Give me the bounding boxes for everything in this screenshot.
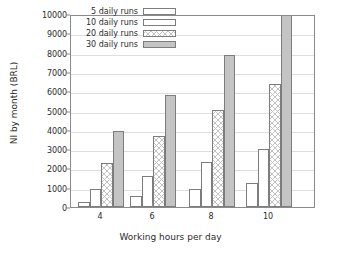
x-tick-mark (152, 203, 153, 208)
legend-item: 20 daily runs (86, 28, 176, 38)
y-tick-mark (66, 53, 70, 54)
bar (246, 183, 258, 207)
legend-label: 20 daily runs (86, 29, 138, 38)
y-tick-label: 8000 (47, 49, 67, 58)
y-tick-label: 3000 (47, 146, 67, 155)
x-tick-mark (268, 203, 269, 208)
legend-swatch (143, 8, 176, 15)
x-tick-label: 10 (263, 212, 273, 221)
bar (78, 202, 90, 207)
y-tick-label: 7000 (47, 68, 67, 77)
legend-swatch (143, 19, 176, 26)
bar (269, 84, 281, 207)
y-tick-mark (66, 130, 70, 131)
bar (212, 110, 224, 207)
y-tick-label: 6000 (47, 88, 67, 97)
y-tick-mark (66, 72, 70, 73)
y-tick-label: 2000 (47, 165, 67, 174)
bar (189, 189, 201, 207)
y-tick-mark (66, 208, 70, 209)
legend: 5 daily runs10 daily runs20 daily runs30… (86, 6, 176, 49)
y-tick-mark (66, 188, 70, 189)
legend-swatch (143, 30, 176, 37)
x-tick-label: 6 (149, 212, 154, 221)
bar (101, 163, 113, 207)
bar (281, 15, 293, 207)
y-tick-mark (66, 169, 70, 170)
legend-swatch (143, 41, 176, 48)
bar (258, 149, 270, 207)
y-tick-mark (66, 15, 70, 16)
x-tick-mark (211, 203, 212, 208)
y-tick-label: 5000 (47, 107, 67, 116)
y-tick-label: 10000 (42, 11, 67, 20)
legend-label: 30 daily runs (86, 40, 138, 49)
bar (224, 55, 236, 207)
bar-chart: 0100020003000400050006000700080009000100… (0, 0, 341, 259)
x-axis-title: Working hours per day (0, 232, 341, 242)
legend-item: 5 daily runs (86, 6, 176, 16)
bar (130, 196, 142, 207)
y-tick-mark (66, 34, 70, 35)
legend-label: 5 daily runs (91, 7, 138, 16)
legend-label: 10 daily runs (86, 18, 138, 27)
x-tick-mark (100, 203, 101, 208)
legend-item: 10 daily runs (86, 17, 176, 27)
x-tick-label: 4 (97, 212, 102, 221)
y-tick-label: 4000 (47, 126, 67, 135)
gridline (71, 55, 314, 56)
x-tick-label: 8 (208, 212, 213, 221)
y-tick-label: 9000 (47, 30, 67, 39)
y-tick-mark (66, 111, 70, 112)
bar (201, 162, 213, 207)
y-axis-title: NI by month (BRL) (9, 43, 19, 163)
y-tick-mark (66, 150, 70, 151)
bar (165, 95, 177, 207)
y-tick-label: 1000 (47, 184, 67, 193)
legend-item: 30 daily runs (86, 39, 176, 49)
bar (113, 131, 125, 207)
gridline (71, 74, 314, 75)
bar (153, 136, 165, 207)
y-tick-mark (66, 92, 70, 93)
